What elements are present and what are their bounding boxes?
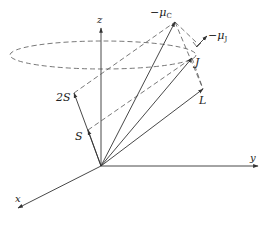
x-axis-label: x [15,193,21,204]
label-mu-J-main: −μ [208,29,224,42]
x-axis [18,166,101,208]
label-S: S [75,130,83,143]
vector-L [101,89,203,166]
vector-S [88,130,101,166]
vectors [74,22,207,166]
construction-lines [74,22,203,130]
label-mu-J-sub: J [223,35,227,43]
angular-momentum-vector-diagram: z y x S 2S L J −μC −μJ [0,0,267,225]
label-L: L [198,94,206,107]
label-mu-C: −μC [150,6,172,20]
vector-mu-C [101,22,175,166]
label-2S: 2S [55,91,71,104]
precession-cone-ellipse [10,41,196,69]
z-axis-label: z [96,14,103,25]
label-mu-C-sub: C [166,12,171,20]
label-mu-C-main: −μ [150,6,166,19]
coordinate-axes [18,28,258,208]
vector-mu-J [196,36,207,47]
label-mu-J: −μJ [208,29,227,43]
y-axis-label: y [249,152,256,163]
label-J: J [193,56,200,69]
